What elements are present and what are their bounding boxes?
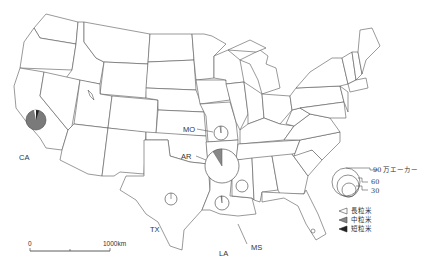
legend-size-30: 30	[371, 187, 379, 195]
legend-size-90: 90 万エーカー	[373, 166, 418, 174]
state-outlines	[14, 14, 380, 250]
medium-grain-icon	[339, 217, 347, 223]
scale-start-label: 0	[28, 240, 32, 247]
type-legend: 長粒米 中粒米 短粒米	[339, 206, 372, 233]
label-ca: CA	[19, 153, 29, 162]
label-la: LA	[219, 249, 228, 258]
label-mo: MO	[183, 125, 195, 134]
size-legend: 90 万エーカー 60 30	[332, 166, 418, 197]
pie-mo	[214, 126, 228, 140]
scale-end-label: 1000km	[103, 240, 126, 247]
short-grain-icon	[339, 226, 347, 232]
label-ms: MS	[251, 243, 262, 252]
pie-ca	[26, 110, 46, 130]
pie-la	[215, 196, 229, 210]
label-tx: TX	[150, 225, 160, 234]
long-grain-icon	[339, 208, 347, 214]
pie-tx	[165, 193, 177, 205]
legend-short-grain: 短粒米	[351, 224, 372, 233]
legend-size-60: 60	[371, 178, 379, 186]
us-rice-map: CA MO AR TX LA MS 90 万エーカー 60 30 長粒米 中粒米…	[0, 0, 426, 267]
label-ar: AR	[181, 152, 192, 161]
pie-ar	[205, 149, 239, 183]
legend-long-grain: 長粒米	[351, 206, 372, 215]
legend-medium-grain: 中粒米	[351, 215, 372, 224]
scale-bar: 0 1000km	[28, 240, 126, 251]
pie-ms	[236, 180, 248, 192]
